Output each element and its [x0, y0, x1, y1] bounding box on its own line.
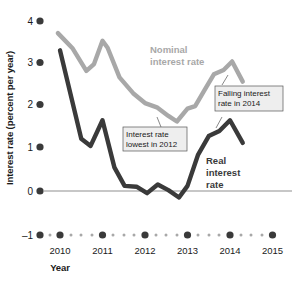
y-tick-label-neg1: –1: [22, 230, 34, 241]
x-tick-label-2015: 2015: [262, 245, 283, 256]
x-tick-dot-2012: [141, 231, 148, 238]
y-tick-label-4: 4: [27, 16, 33, 27]
interest-rate-chart: Interest rate (percent per year) 4 3 2 1…: [0, 0, 299, 281]
lowest-2012-annotation: Interest rate lowest in 2012: [123, 127, 187, 151]
x-tick-dot-2013: [184, 231, 191, 238]
x-tick-label-2010: 2010: [49, 245, 70, 256]
x-tick-label-2012: 2012: [134, 245, 155, 256]
real-series-label-line2: interest: [206, 167, 241, 178]
y-axis-label: Interest rate (percent per year): [4, 51, 15, 185]
y-tick-dot-0: [36, 187, 43, 194]
nominal-series-label: Nominal interest rate: [150, 44, 204, 67]
x-axis-label: Year: [50, 262, 70, 273]
real-series-label-line3: rate: [206, 179, 223, 190]
lowest-2012-annotation-line1: Interest rate: [126, 130, 169, 139]
y-tick-dot-2: [36, 101, 43, 108]
y-tick-dot-4: [36, 17, 43, 24]
y-tick-label-1: 1: [27, 142, 33, 153]
x-tick-dot-2010: [56, 231, 63, 238]
x-tick-dot-2011: [99, 231, 106, 238]
real-series-label: Real interest rate: [206, 155, 241, 190]
nominal-series-label-line1: Nominal: [150, 44, 187, 55]
x-tick-dot-2014: [226, 231, 233, 238]
y-tick-dot-1: [36, 143, 43, 150]
x-tick-label-2013: 2013: [177, 245, 198, 256]
y-tick-label-2: 2: [27, 99, 33, 110]
falling-2014-annotation: Falling interest rate in 2014: [215, 86, 283, 111]
real-series-label-line1: Real: [206, 155, 226, 166]
x-tick-dot-2015: [269, 231, 276, 238]
falling-2014-leader-top: [222, 75, 228, 85]
y-tick-label-0: 0: [27, 186, 33, 197]
x-tick-label-2014: 2014: [219, 245, 240, 256]
lowest-2012-annotation-line2: lowest in 2012: [126, 140, 178, 149]
falling-2014-annotation-line2: rate in 2014: [218, 99, 261, 108]
nominal-series-label-line2: interest rate: [150, 56, 204, 67]
x-tick-label-2011: 2011: [92, 245, 112, 256]
y-tick-label-3: 3: [27, 57, 33, 68]
chart-canvas: Interest rate (percent per year) 4 3 2 1…: [0, 0, 299, 281]
y-tick-dot-3: [36, 59, 43, 66]
falling-2014-annotation-line1: Falling interest: [218, 89, 271, 98]
y-tick-dot-neg1: [36, 231, 43, 238]
lowest-2012-leader-line: [157, 117, 161, 127]
